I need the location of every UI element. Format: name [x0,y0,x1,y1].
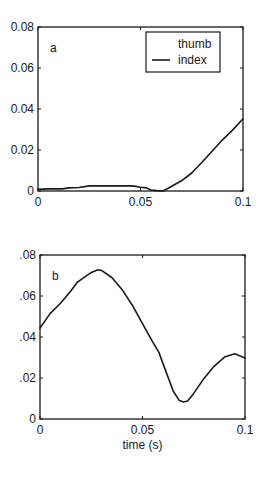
figure: 00.020.040.060.0800.050.1athumbindex 0.0… [0,0,263,479]
y-tick-label: 0.04 [11,102,35,116]
series-line [40,270,245,402]
x-tick-label: 0 [37,423,44,437]
y-tick-label: .08 [19,248,36,262]
y-tick-label: 0.02 [11,143,35,157]
panel-label: b [52,269,59,283]
x-tick-label: 0.05 [131,423,155,437]
x-tick-label: 0.1 [237,423,254,437]
y-tick-label: .02 [19,371,36,385]
legend: thumbindex [146,32,220,72]
x-tick-label: 0.05 [129,195,153,209]
y-tick-label: 0.08 [11,20,35,34]
series-line-index [38,119,243,191]
legend-entry-index: index [178,53,207,67]
panel-label: a [50,41,57,55]
legend-entry-thumb: thumb [178,37,212,51]
x-tick-label: 0.1 [235,195,252,209]
y-tick-label: .04 [19,330,36,344]
y-tick-label: 0.06 [11,61,35,75]
y-tick-label: 0 [27,184,34,198]
y-tick-label: .06 [19,289,36,303]
y-tick-label: 0 [29,412,36,426]
panel-a: 00.020.040.060.0800.050.1athumbindex [11,20,252,209]
axes-frame [40,255,245,419]
x-tick-label: 0 [35,195,42,209]
panel-b: 0.02.04.06.0800.050.1btime (s) [19,248,253,452]
x-axis-title: time (s) [123,438,163,452]
